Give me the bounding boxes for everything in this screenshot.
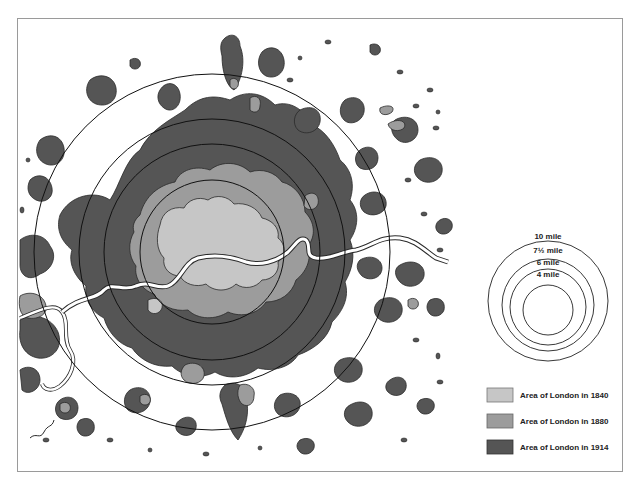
scale-label-6-mile: 6 mile [537,258,560,267]
scale-label-4-mile: 4 mile [537,270,560,279]
legend-swatch-1880 [487,414,513,428]
scale-legend: 10 mile 7½ mile 6 mile 4 mile [488,232,608,361]
scale-label-10-mile: 10 mile [534,232,562,241]
london-growth-map: 10 mile 7½ mile 6 mile 4 mile Area of Lo… [0,0,641,493]
area-legend: Area of London in 1840 Area of London in… [487,388,609,454]
legend-label-1914: Area of London in 1914 [520,443,609,452]
legend-label-1880: Area of London in 1880 [520,417,609,426]
legend-label-1840: Area of London in 1840 [520,391,609,400]
scale-ring-4-mile [523,285,573,335]
scale-label-7-5-mile: 7½ mile [533,246,563,255]
legend-item-1914: Area of London in 1914 [487,440,609,454]
legend-swatch-1840 [487,388,513,402]
legend-item-1840: Area of London in 1840 [487,388,609,402]
legend-swatch-1914 [487,440,513,454]
legend-item-1880: Area of London in 1880 [487,414,609,428]
scale-ring-6-mile [510,269,586,345]
